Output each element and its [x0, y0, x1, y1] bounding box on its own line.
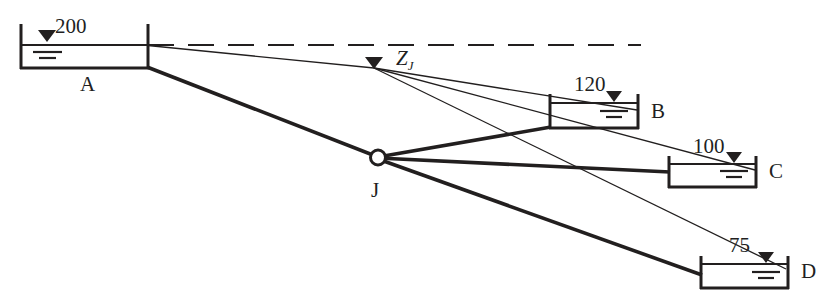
- reservoir-c-level-triangle-icon: [726, 152, 742, 163]
- pipe-j-to-d: [378, 159, 702, 275]
- reservoir-b-head-label: 120: [574, 74, 606, 95]
- reservoir-c-head-label: 100: [693, 136, 725, 157]
- reservoir-d: [700, 252, 789, 289]
- pipe-a-to-j: [147, 67, 378, 157]
- reservoir-a-level-triangle-icon: [38, 30, 56, 42]
- diagram-canvas: 200 A 120 B 100 C 75 D ZJ J: [0, 0, 832, 299]
- reservoir-b-name-label: B: [651, 101, 665, 122]
- junction-head-symbol: Z: [396, 46, 408, 70]
- junction-node-j: [371, 150, 386, 165]
- pipe-j-to-c: [378, 158, 670, 172]
- reservoir-b: [549, 91, 639, 129]
- reservoir-c-name-label: C: [769, 161, 783, 182]
- junction-head-label: ZJ: [396, 48, 413, 72]
- reservoir-d-head-label: 75: [729, 235, 750, 256]
- junction-name-label: J: [371, 180, 379, 201]
- junction-head-subscript: J: [408, 58, 414, 73]
- reservoir-a-head-label: 200: [55, 16, 87, 37]
- piezo-line-a-to-zj: [148, 46, 374, 69]
- reservoir-d-name-label: D: [801, 261, 816, 282]
- reservoir-a-name-label: A: [80, 74, 95, 95]
- reservoir-b-level-triangle-icon: [606, 91, 622, 102]
